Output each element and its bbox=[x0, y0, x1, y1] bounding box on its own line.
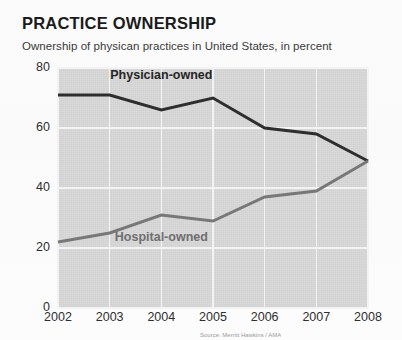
series-line-hospital-owned bbox=[58, 161, 368, 242]
series-line-physician-owned bbox=[58, 95, 368, 161]
series-label-hospital-owned: Hospital-owned bbox=[115, 230, 208, 244]
plot-container: 020406080 2002200320042005200620072008 P… bbox=[0, 0, 402, 340]
x-tick-label-2006: 2006 bbox=[237, 310, 293, 324]
x-tick-label-2004: 2004 bbox=[133, 310, 189, 324]
series-lines bbox=[58, 68, 368, 308]
x-tick-label-2003: 2003 bbox=[82, 310, 138, 324]
x-tick-label-2008: 2008 bbox=[340, 310, 396, 324]
y-tick-label-20: 20 bbox=[6, 240, 50, 254]
y-tick-label-80: 80 bbox=[6, 60, 50, 74]
y-tick-label-60: 60 bbox=[6, 120, 50, 134]
source-note: Source: Merritt Hawkins / AMA bbox=[200, 332, 281, 340]
chart-figure: PRACTICE OWNERSHIP Ownership of physican… bbox=[0, 0, 402, 340]
y-tick-label-40: 40 bbox=[6, 180, 50, 194]
x-tick-label-2007: 2007 bbox=[288, 310, 344, 324]
x-tick-label-2005: 2005 bbox=[185, 310, 241, 324]
x-tick-label-2002: 2002 bbox=[30, 310, 86, 324]
series-label-physician-owned: Physician-owned bbox=[110, 68, 212, 82]
